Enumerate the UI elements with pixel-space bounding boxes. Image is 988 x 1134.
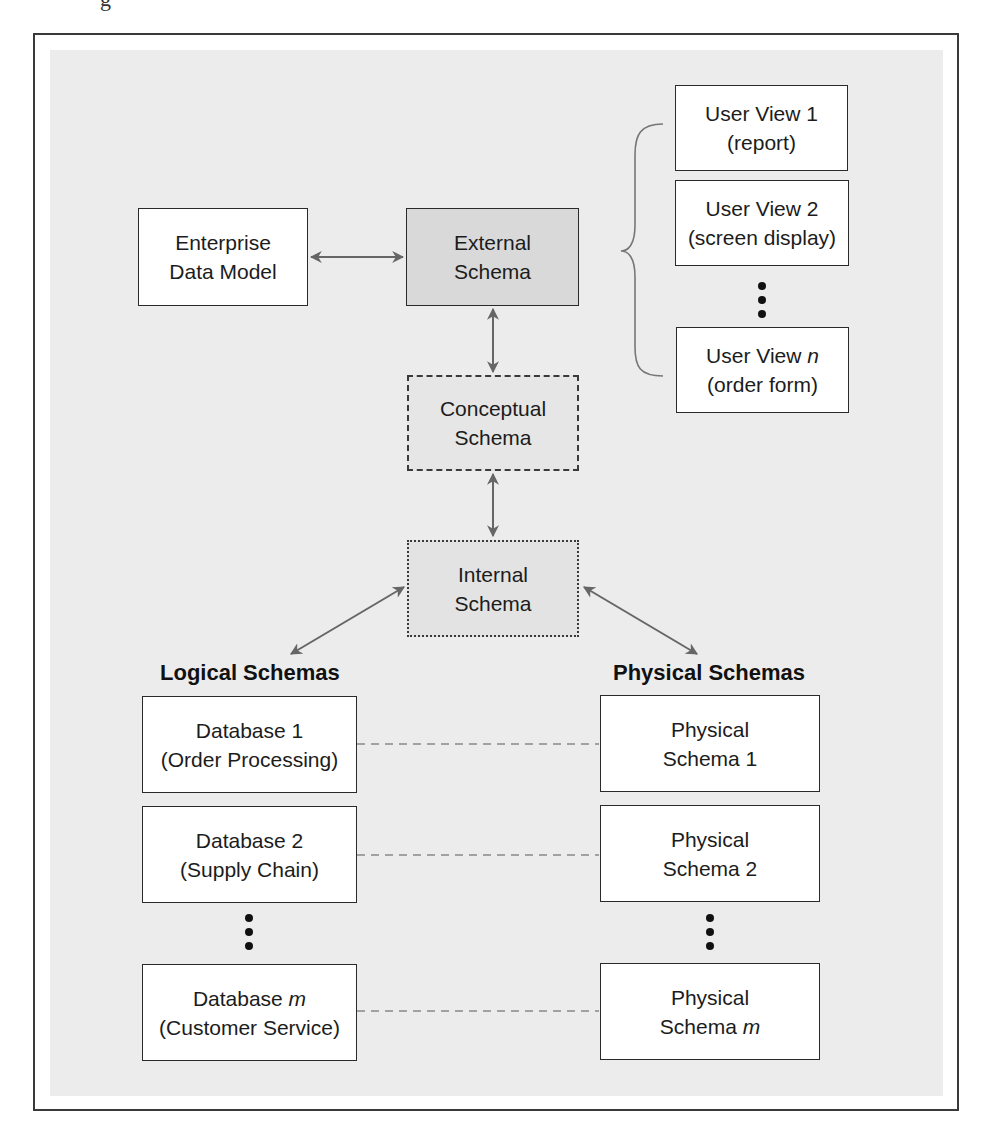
box-label: Schema (454, 257, 531, 286)
box-label: Schema 2 (663, 854, 758, 883)
user-view-n-box: User View n (order form) (676, 327, 849, 413)
box-label: Conceptual (440, 394, 546, 423)
variable-m: m (743, 1015, 761, 1038)
physical-schema-m-box: Physical Schema m (600, 963, 820, 1060)
box-label: Enterprise (175, 228, 271, 257)
box-label: Internal (458, 560, 528, 589)
physical-schemas-heading: Physical Schemas (613, 660, 805, 686)
page-text-fragment: g (100, 0, 111, 12)
external-schema-box: External Schema (406, 208, 579, 306)
box-label: (report) (727, 128, 796, 157)
box-label: Schema (454, 589, 531, 618)
ellipsis-dots-icon (245, 914, 253, 950)
user-view-2-box: User View 2 (screen display) (675, 180, 849, 266)
internal-schema-box: Internal Schema (407, 540, 579, 637)
box-label: Schema (454, 423, 531, 452)
ellipsis-dots-icon (706, 914, 714, 950)
box-label: Schema 1 (663, 744, 758, 773)
box-label: Physical (671, 983, 749, 1012)
box-label: (order form) (707, 370, 818, 399)
database-m-box: Database m (Customer Service) (142, 964, 357, 1061)
box-label: Database (193, 987, 289, 1010)
box-label: (Customer Service) (159, 1013, 340, 1042)
box-label: Database 2 (196, 826, 303, 855)
box-label: (screen display) (688, 223, 836, 252)
box-label: Physical (671, 825, 749, 854)
box-label: Data Model (169, 257, 276, 286)
variable-m: m (289, 987, 307, 1010)
conceptual-schema-box: Conceptual Schema (407, 375, 579, 471)
physical-schema-1-box: Physical Schema 1 (600, 695, 820, 792)
database-1-box: Database 1 (Order Processing) (142, 696, 357, 793)
variable-n: n (807, 344, 819, 367)
box-label: Database 1 (196, 716, 303, 745)
box-label: (Order Processing) (161, 745, 338, 774)
box-label: Physical (671, 715, 749, 744)
box-label: Schema (660, 1015, 743, 1038)
logical-schemas-heading: Logical Schemas (160, 660, 340, 686)
box-label: (Supply Chain) (180, 855, 319, 884)
enterprise-data-model-box: Enterprise Data Model (138, 208, 308, 306)
database-2-box: Database 2 (Supply Chain) (142, 806, 357, 903)
user-view-1-box: User View 1 (report) (675, 85, 848, 171)
box-label: User View 1 (705, 99, 818, 128)
physical-schema-2-box: Physical Schema 2 (600, 805, 820, 902)
box-label: External (454, 228, 531, 257)
box-label: User View 2 (706, 194, 819, 223)
box-label: User View (706, 344, 807, 367)
ellipsis-dots-icon (758, 282, 766, 318)
